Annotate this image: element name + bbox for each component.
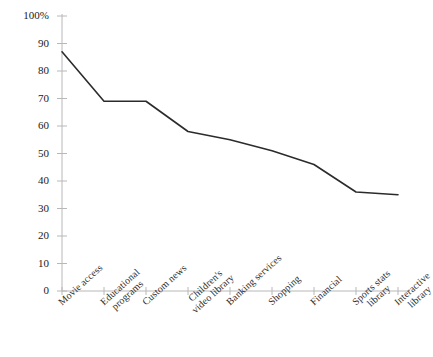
- y-tick-label: 90: [0, 38, 49, 49]
- data-series-line: [62, 52, 398, 195]
- y-tick-label: 80: [0, 65, 49, 76]
- y-tick-label: 60: [0, 120, 49, 131]
- y-tick-label: 30: [0, 203, 49, 214]
- y-tick-label: 10: [0, 258, 49, 269]
- axes: [62, 14, 410, 291]
- y-tick-label: 100%: [0, 10, 49, 21]
- y-tick-label: 70: [0, 93, 49, 104]
- y-tick-label: 40: [0, 175, 49, 186]
- y-tick-label: 0: [0, 285, 49, 296]
- y-tick-label: 50: [0, 148, 49, 159]
- y-tick-label: 20: [0, 230, 49, 241]
- line-chart: 100%9080706050403020100 Movie accessEduc…: [0, 0, 433, 357]
